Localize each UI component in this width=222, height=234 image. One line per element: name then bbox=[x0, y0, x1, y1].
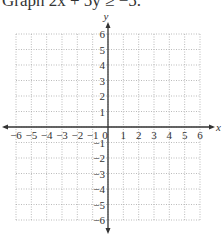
axes bbox=[2, 22, 215, 234]
y-tick-label: −2 bbox=[93, 152, 105, 164]
y-tick-label: 5 bbox=[100, 44, 106, 56]
x-tick-label: −5 bbox=[25, 129, 37, 141]
y-axis-label: y bbox=[103, 10, 109, 22]
x-tick-label: −3 bbox=[56, 129, 68, 141]
x-axis-label: x bbox=[215, 121, 221, 133]
y-tick-label: −5 bbox=[93, 199, 105, 211]
y-tick-label: 2 bbox=[100, 90, 106, 102]
y-tick-label: 1 bbox=[100, 106, 106, 118]
x-tick-label: 2 bbox=[136, 129, 142, 141]
y-tick-label: −3 bbox=[93, 168, 105, 180]
x-tick-label: −4 bbox=[41, 129, 53, 141]
x-tick-label: 4 bbox=[167, 129, 173, 141]
x-tick-label: 1 bbox=[121, 129, 127, 141]
x-tick-label: 3 bbox=[151, 129, 157, 141]
x-tick-label: −6 bbox=[10, 129, 22, 141]
coordinate-grid[interactable]: −6−5−4−3−2−10123456 −6−5−4−3−2−1123456 x… bbox=[0, 0, 222, 234]
x-tick-labels: −6−5−4−3−2−10123456 bbox=[10, 129, 203, 141]
y-tick-label: −1 bbox=[93, 137, 105, 149]
y-tick-label: 6 bbox=[100, 28, 106, 40]
y-tick-label: 3 bbox=[100, 75, 106, 87]
y-tick-label: −6 bbox=[93, 214, 105, 226]
x-tick-label: 6 bbox=[197, 129, 203, 141]
y-tick-label: −4 bbox=[93, 183, 105, 195]
y-tick-label: 4 bbox=[100, 59, 106, 71]
x-tick-label: 5 bbox=[182, 129, 188, 141]
x-tick-label: −2 bbox=[71, 129, 83, 141]
